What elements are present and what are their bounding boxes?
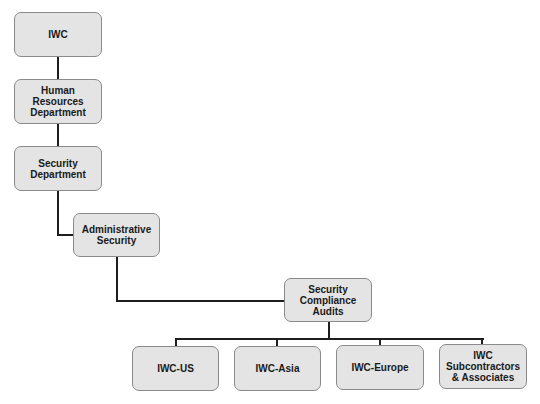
node-administrative-security: Administrative Security (73, 213, 160, 257)
node-iwc-us: IWC-US (132, 346, 219, 391)
node-iwc-subcontractors-associates: IWC Subcontractors & Associates (439, 344, 527, 389)
connector-bus-us (175, 338, 177, 346)
connector-admin-sca-vertical (116, 257, 118, 302)
node-iwc: IWC (14, 12, 102, 57)
connector-security-department-admin-horizontal (57, 234, 74, 236)
node-security-compliance-audits: Security Compliance Audits (284, 278, 372, 322)
connector-iwc-hr (57, 57, 59, 79)
node-iwc-europe: IWC-Europe (336, 345, 424, 390)
connector-bus-horizontal (175, 338, 484, 340)
connector-admin-sca-horizontal (116, 300, 285, 302)
connector-hr-security-department (57, 124, 59, 146)
connector-security-department-admin-vertical (57, 191, 59, 236)
node-security-department: Security Department (14, 146, 102, 191)
node-iwc-asia: IWC-Asia (234, 346, 321, 391)
connector-bus-europe (379, 338, 381, 345)
node-human-resources-department: Human Resources Department (14, 79, 102, 124)
connector-bus-asia (276, 338, 278, 346)
